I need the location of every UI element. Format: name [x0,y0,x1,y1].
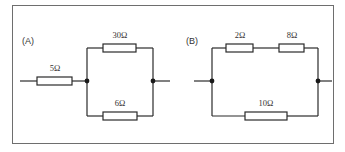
circuit-a [20,44,170,120]
panel-label-b: (B) [186,37,198,46]
junction-a-right [151,79,156,84]
panel-label-a: (A) [22,37,34,46]
resistor-b-8ohm [279,44,304,52]
resistor-a-6ohm [103,112,137,120]
circuit-b [194,44,332,120]
resistor-label-b-10ohm: 10Ω [259,99,274,108]
resistor-label-b-2ohm: 2Ω [235,31,246,40]
resistor-b-10ohm [245,112,287,120]
junction-a-left [85,79,90,84]
resistor-label-a-5ohm: 5Ω [50,64,61,73]
resistor-b-2ohm [226,44,253,52]
junction-b-right [316,79,321,84]
resistor-label-b-8ohm: 8Ω [287,31,298,40]
resistor-label-a-30ohm: 30Ω [113,31,128,40]
circuit-diagrams [0,0,345,152]
junction-b-left [210,79,215,84]
resistor-label-a-6ohm: 6Ω [115,99,126,108]
resistor-a-5ohm [37,77,72,85]
resistor-a-30ohm [103,44,136,52]
